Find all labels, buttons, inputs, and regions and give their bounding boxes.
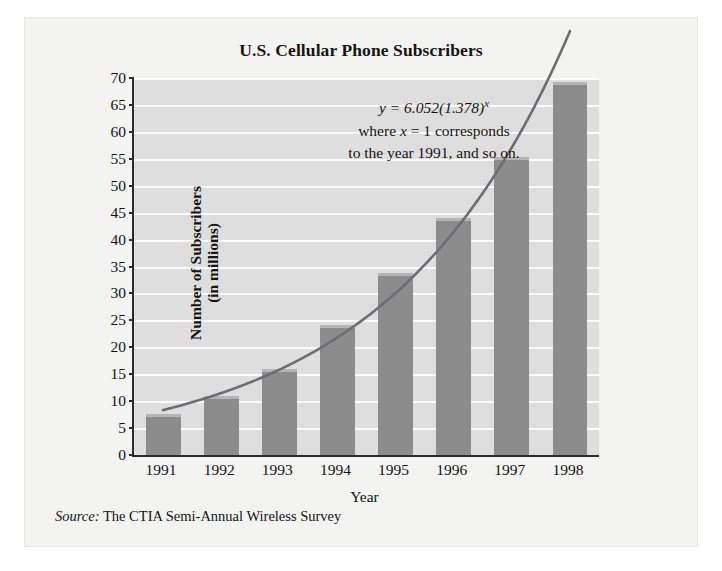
bar[interactable] bbox=[436, 218, 471, 455]
equation-exponent: x bbox=[484, 97, 489, 109]
source-label: Source: bbox=[55, 508, 100, 524]
y-tick-label: 60 bbox=[111, 123, 127, 141]
bar[interactable] bbox=[494, 157, 529, 455]
x-tick-label: 1994 bbox=[320, 461, 351, 479]
y-tick-label: 30 bbox=[111, 284, 127, 302]
y-tick-label: 10 bbox=[111, 392, 127, 410]
annotation-line-3: to the year 1991, and so on. bbox=[284, 142, 584, 164]
bar[interactable] bbox=[146, 414, 181, 455]
y-tick-label: 65 bbox=[111, 96, 127, 114]
source-note: Source: The CTIA Semi-Annual Wireless Su… bbox=[55, 508, 341, 525]
annotation-line-2: where x = 1 corresponds bbox=[284, 120, 584, 142]
x-axis-title: Year bbox=[132, 488, 597, 506]
annotation-line2-var: x bbox=[400, 122, 407, 139]
x-tick-label: 1998 bbox=[552, 461, 583, 479]
y-tick-label: 0 bbox=[118, 446, 126, 464]
y-tick-label: 50 bbox=[111, 177, 127, 195]
bar[interactable] bbox=[262, 369, 297, 455]
y-tick-label: 70 bbox=[111, 69, 127, 87]
bar-group bbox=[134, 78, 192, 455]
y-tick-label: 25 bbox=[111, 311, 127, 329]
x-tick-label: 1995 bbox=[378, 461, 409, 479]
y-axis-title: Number of Subscribers (in millions) bbox=[187, 133, 222, 393]
y-axis-title-line1: Number of Subscribers bbox=[187, 133, 204, 393]
y-tick-label: 5 bbox=[118, 419, 126, 437]
y-tick-label: 45 bbox=[111, 204, 127, 222]
y-tick-label: 55 bbox=[111, 150, 127, 168]
chart-title: U.S. Cellular Phone Subscribers bbox=[25, 40, 697, 61]
bar[interactable] bbox=[204, 396, 239, 455]
equation-line: y = 6.052(1.378)x bbox=[284, 96, 584, 120]
x-tick-label: 1997 bbox=[494, 461, 525, 479]
equation-text: y = 6.052(1.378) bbox=[379, 99, 484, 116]
bar[interactable] bbox=[378, 273, 413, 455]
y-tick-label: 15 bbox=[111, 365, 127, 383]
plot-area: 0510152025303540455055606570 y = 6.052(1… bbox=[132, 78, 599, 457]
y-tick-label: 20 bbox=[111, 338, 127, 356]
y-tick-label: 40 bbox=[111, 231, 127, 249]
annotation-line2-post: = 1 corresponds bbox=[407, 122, 510, 139]
chart-figure: U.S. Cellular Phone Subscribers 05101520… bbox=[25, 18, 697, 546]
bar[interactable] bbox=[320, 325, 355, 455]
model-equation-annotation: y = 6.052(1.378)x where x = 1 correspond… bbox=[284, 96, 584, 165]
annotation-line2-pre: where bbox=[358, 122, 400, 139]
x-tick-label: 1991 bbox=[146, 461, 177, 479]
x-tick-label: 1996 bbox=[436, 461, 467, 479]
x-tick-label: 1993 bbox=[262, 461, 293, 479]
x-tick-label: 1992 bbox=[204, 461, 235, 479]
source-text: The CTIA Semi-Annual Wireless Survey bbox=[103, 508, 341, 524]
x-axis-ticks: 19911992199319941995199619971998 bbox=[132, 461, 597, 487]
y-axis-title-line2: (in millions) bbox=[204, 133, 221, 393]
y-tick-label: 35 bbox=[111, 258, 127, 276]
